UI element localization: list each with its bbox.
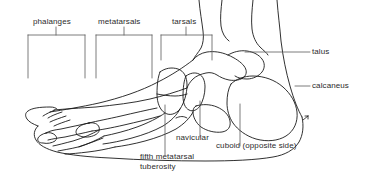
foot-anatomy-diagram: phalanges metatarsals tarsals talus calc… (0, 0, 365, 184)
metatarsal-1-top (89, 108, 157, 123)
calcaneus-bone (227, 76, 297, 141)
label-metatarsals: metatarsals (98, 17, 140, 27)
metatarsals-bracket (96, 35, 152, 78)
cuneiform-bones (157, 68, 187, 114)
dorsum-skin-line (54, 88, 187, 110)
label-navicular: navicular (176, 133, 209, 143)
label-phalanges: phalanges (33, 17, 71, 27)
toe-detail-2 (50, 116, 66, 122)
heel-arrow-mark (303, 116, 308, 120)
tarsals-bracket (161, 35, 212, 60)
label-talus: talus (312, 47, 329, 57)
fifth-metatarsal-tuberosity-bone (176, 117, 187, 119)
tibia-medial-line (221, 0, 229, 41)
label-tarsals: tarsals (172, 17, 196, 27)
phalanx-proximal-1 (46, 123, 89, 133)
fibula-line (252, 0, 268, 55)
toe-detail-3 (54, 120, 70, 126)
metatarsal-1-bottom (92, 116, 160, 131)
cuboid-bone (193, 105, 230, 133)
phalanx-distal-1 (38, 133, 57, 144)
tibia-anterior-line (193, 0, 203, 60)
label-cuboid: cuboid (opposite side) (216, 141, 296, 151)
toe-detail-1 (48, 112, 62, 118)
phalanges-bracket (28, 35, 85, 78)
label-fifth-metatarsal-tuberosity: fifth metatarsal tuberosity (140, 152, 194, 171)
phalanx-proximal-1-lower (48, 131, 92, 140)
label-calcaneus: calcaneus (312, 81, 349, 91)
toe-tip-skin-line (26, 107, 57, 126)
talus-bone (187, 52, 246, 88)
posterior-leg-line (277, 0, 302, 117)
metatarsal-2-line (104, 113, 165, 136)
